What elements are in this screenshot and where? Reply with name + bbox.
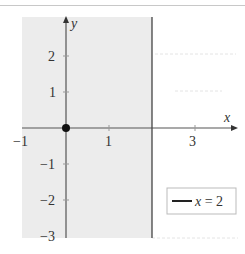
- legend: x = 2: [167, 188, 236, 214]
- origin-point: [62, 124, 70, 132]
- x-tick-label-1: 1: [105, 134, 112, 149]
- y-tick-label-2: 2: [48, 49, 55, 64]
- legend-label: x = 2: [194, 194, 223, 209]
- chart: y x −1 1 3 2 1 −1 −2 −3 x = 2: [0, 0, 245, 254]
- y-tick-label-neg1: −1: [40, 157, 55, 172]
- y-tick-label-1: 1: [49, 85, 56, 100]
- x-axis-arrow-icon: [231, 125, 238, 131]
- y-tick-label-neg3: −3: [40, 229, 55, 244]
- y-tick-label-neg2: −2: [40, 193, 55, 208]
- x-tick-label-neg1: −1: [13, 134, 28, 149]
- y-axis-label: y: [69, 16, 78, 31]
- x-axis-label: x: [223, 110, 231, 125]
- x-tick-label-3: 3: [189, 134, 196, 149]
